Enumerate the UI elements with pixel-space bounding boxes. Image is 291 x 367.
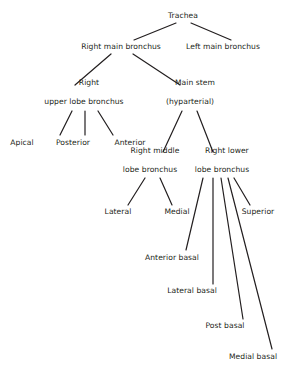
node-label-line2: upper lobe bronchus bbox=[44, 97, 123, 106]
node-right-upper-lobe-bronchus: Right upper lobe bronchus bbox=[44, 69, 123, 125]
node-label-line1: Main stem bbox=[175, 78, 215, 87]
node-apical: Apical bbox=[10, 138, 33, 147]
node-label-line1: Right bbox=[79, 78, 99, 87]
edge-trachea-to-right_main_bronchus bbox=[134, 23, 176, 40]
node-anterior-basal: Anterior basal bbox=[145, 253, 199, 262]
node-posterior: Posterior bbox=[56, 138, 90, 147]
node-label-line1: Right middle bbox=[130, 146, 179, 155]
node-label-line1: Right lower bbox=[205, 146, 249, 155]
node-lateral-basal: Lateral basal bbox=[167, 286, 217, 295]
node-right-main-bronchus: Right main bronchus bbox=[81, 42, 161, 51]
node-label-line2: (hyparterial) bbox=[165, 97, 215, 106]
node-post-basal: Post basal bbox=[206, 321, 245, 330]
node-left-main-bronchus: Left main bronchus bbox=[186, 42, 260, 51]
node-label-line2: lobe bronchus bbox=[195, 165, 249, 174]
node-trachea: Trachea bbox=[168, 11, 198, 20]
node-label-line2: lobe bronchus bbox=[121, 165, 180, 174]
node-medial-basal: Medial basal bbox=[229, 352, 277, 361]
node-lateral: Lateral bbox=[105, 207, 132, 216]
bronchial-tree-diagram: Trachea Right main bronchus Left main br… bbox=[0, 0, 291, 367]
edge-trachea-to-left_main_bronchus bbox=[191, 23, 231, 40]
edge-right_lower_lobe_bronchus-to-post_basal bbox=[221, 178, 243, 319]
node-superior: Superior bbox=[242, 207, 275, 216]
node-right-middle-lobe-bronchus: Right middle lobe bronchus bbox=[121, 137, 180, 193]
node-main-stem: Main stem (hyparterial) bbox=[165, 69, 215, 125]
node-medial: Medial bbox=[164, 207, 189, 216]
node-right-lower-lobe-bronchus: Right lower lobe bronchus bbox=[195, 137, 249, 193]
